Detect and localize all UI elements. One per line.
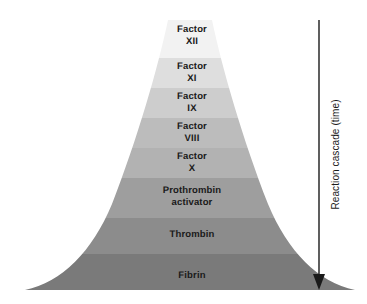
funnel-bands <box>0 20 367 290</box>
reaction-cascade-caption: Reaction cascade (time) <box>330 95 341 215</box>
funnel-band-prothrombin-activator <box>0 178 367 218</box>
reaction-cascade-arrow <box>313 20 325 290</box>
funnel-band-fibrin <box>0 254 367 290</box>
funnel-band-factor-ix <box>0 88 367 118</box>
funnel-band-factor-xii <box>0 20 367 58</box>
cascade-figure: Factor XII Factor XI Factor IX Factor VI… <box>0 0 367 304</box>
funnel-band-factor-viii <box>0 118 367 148</box>
funnel-band-thrombin <box>0 218 367 254</box>
funnel-band-factor-x <box>0 148 367 178</box>
cascade-svg <box>0 0 367 304</box>
funnel-band-factor-xi <box>0 58 367 88</box>
